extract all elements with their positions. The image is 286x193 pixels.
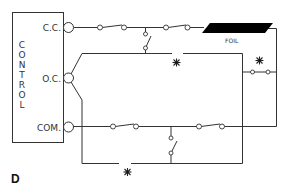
panel-label: D [11, 172, 20, 186]
switch-contact [197, 124, 202, 129]
switch-contacts [98, 25, 271, 155]
control-letter: C [19, 40, 25, 50]
terminal-com [64, 122, 74, 132]
wiring [71, 25, 277, 164]
switch-contact [185, 25, 190, 30]
terminal-label-com: COM. [37, 123, 61, 133]
control-letter: O [18, 90, 25, 100]
star-marker-oc-top [173, 59, 181, 67]
switch-contact [169, 136, 173, 140]
switch-contact [164, 25, 169, 30]
control-vertical-label: C O N T R O L [18, 40, 25, 110]
switch-contact [134, 124, 139, 129]
switch-contact [122, 25, 127, 30]
switch-contact [98, 25, 103, 30]
switch-contact [144, 46, 148, 50]
circuit-diagram: C O N T R O L C.C. O.C. COM. [0, 0, 286, 193]
foil-label: FOIL [225, 37, 239, 44]
control-letter: T [18, 70, 25, 80]
terminal-oc [64, 73, 74, 83]
switch-contact [169, 151, 173, 155]
switch-contact [144, 32, 148, 36]
switch-contact [266, 70, 270, 74]
switch-contact [111, 124, 116, 129]
terminal-label-oc: O.C. [42, 74, 61, 84]
switch-contact [251, 70, 255, 74]
terminal-cc [64, 23, 74, 33]
control-letter: N [19, 60, 26, 70]
switch-contact [220, 124, 225, 129]
control-letter: R [19, 80, 25, 90]
star-marker-bottom [124, 168, 132, 176]
foil-shape [202, 23, 273, 33]
control-letter: L [19, 100, 24, 110]
star-marker-right-switch [256, 57, 264, 65]
terminal-label-cc: C.C. [43, 23, 61, 33]
control-letter: O [18, 50, 25, 60]
